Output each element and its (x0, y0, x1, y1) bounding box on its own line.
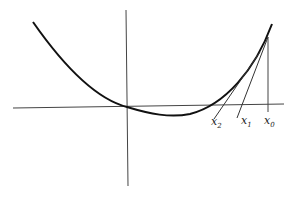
label-x0: x0 (264, 114, 275, 129)
tangent-line-x1 (214, 52, 260, 119)
x-axis (13, 104, 284, 108)
newton-method-diagram: x2 x1 x0 (0, 0, 286, 202)
label-x2: x2 (211, 115, 222, 130)
function-curve (33, 22, 272, 116)
label-x1: x1 (241, 114, 252, 129)
y-axis (126, 10, 128, 186)
